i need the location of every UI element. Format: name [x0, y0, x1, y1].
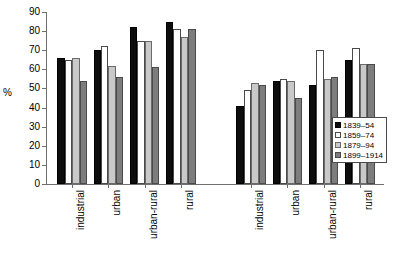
bar: [181, 37, 188, 184]
bar: [101, 46, 108, 184]
bar: [287, 81, 294, 184]
legend-label: 1839–54: [343, 121, 374, 130]
x-tick: [145, 184, 146, 188]
bar: [72, 58, 79, 184]
x-axis-label: urban-rural: [149, 190, 159, 239]
y-axis-line: [46, 12, 47, 184]
bar: [259, 85, 266, 184]
legend-item: 1839–54: [335, 120, 383, 130]
x-tick: [72, 184, 73, 188]
y-tick-label: 70: [29, 44, 40, 55]
legend-swatch-icon: [335, 132, 341, 138]
bar: [188, 29, 195, 184]
legend-item: 1899–1914: [335, 150, 383, 160]
legend-label: 1859–74: [343, 131, 374, 140]
x-axis-label: rural: [185, 190, 195, 210]
bar: [295, 98, 302, 184]
y-tick: [42, 31, 46, 32]
y-tick: [42, 146, 46, 147]
y-axis-title: %: [3, 88, 12, 98]
x-axis-label: industrial: [76, 190, 86, 230]
y-tick-label: 10: [29, 159, 40, 170]
y-tick-label: 40: [29, 102, 40, 113]
x-tick: [181, 184, 182, 188]
bar: [80, 81, 87, 184]
bar: [280, 79, 287, 184]
bar: [236, 106, 243, 184]
x-axis-label: urban: [291, 190, 301, 216]
y-tick: [42, 69, 46, 70]
y-tick-label: 20: [29, 140, 40, 151]
bar: [108, 66, 115, 184]
y-tick: [42, 165, 46, 166]
y-tick-label: 80: [29, 25, 40, 36]
y-tick: [42, 108, 46, 109]
bar: [244, 90, 251, 184]
bar: [94, 50, 101, 184]
bar: [273, 81, 280, 184]
y-tick-label: 30: [29, 121, 40, 132]
y-tick-label: 50: [29, 82, 40, 93]
bar: [173, 29, 180, 184]
x-axis-label: industrial: [255, 190, 265, 230]
x-axis-label: rural: [364, 190, 374, 210]
x-tick: [287, 184, 288, 188]
legend-swatch-icon: [335, 122, 341, 128]
y-tick: [42, 127, 46, 128]
bar-chart: % 0102030405060708090 industrialurbanurb…: [0, 0, 393, 253]
x-axis-label: urban-rural: [328, 190, 338, 239]
legend-swatch-icon: [335, 142, 341, 148]
bar: [130, 27, 137, 184]
bar: [324, 79, 331, 184]
x-axis-line: [46, 184, 384, 185]
x-axis-label: urban: [112, 190, 122, 216]
y-tick: [42, 184, 46, 185]
bar: [152, 67, 159, 184]
bar: [65, 60, 72, 184]
bar: [309, 85, 316, 184]
y-tick: [42, 12, 46, 13]
bar: [145, 41, 152, 184]
x-tick: [360, 184, 361, 188]
x-tick: [108, 184, 109, 188]
chart-legend: 1839–541859–741879–941899–1914: [332, 117, 387, 163]
legend-item: 1859–74: [335, 130, 383, 140]
y-tick: [42, 50, 46, 51]
y-tick-label: 60: [29, 63, 40, 74]
legend-label: 1899–1914: [343, 151, 383, 160]
bar: [57, 58, 64, 184]
x-tick: [324, 184, 325, 188]
x-tick: [251, 184, 252, 188]
bar: [137, 41, 144, 184]
legend-label: 1879–94: [343, 141, 374, 150]
bar: [251, 83, 258, 184]
bar: [166, 22, 173, 184]
y-tick-label: 0: [34, 178, 40, 189]
y-tick-label: 90: [29, 6, 40, 17]
bar: [116, 77, 123, 184]
legend-swatch-icon: [335, 152, 341, 158]
legend-item: 1879–94: [335, 140, 383, 150]
bar: [316, 50, 323, 184]
y-tick: [42, 88, 46, 89]
